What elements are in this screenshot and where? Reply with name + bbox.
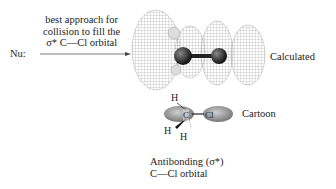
orbital-caption: Antibonding (σ*) C—Cl orbital [150,156,224,180]
caption-line-2: C—Cl orbital [150,168,224,180]
atom-cl: Cl [205,109,214,121]
atom-c: C [183,109,189,121]
nucleophile-label: Nu: [10,48,26,60]
approach-annotation: best approach for collision to fill the … [43,14,120,49]
approach-line-3: σ* C—Cl orbital [43,37,120,49]
cartoon-label: Cartoon [242,108,276,120]
atom-h-left: H [164,125,171,137]
approach-line-2: collision to fill the [43,26,120,38]
approach-arrow [40,52,131,56]
atom-h-top: H [171,92,178,104]
caption-line-1: Antibonding (σ*) [150,156,224,168]
calculated-label: Calculated [270,51,315,63]
calculated-orbital-mesh [132,10,265,90]
approach-line-1: best approach for [43,14,120,26]
atom-h-right: H [180,131,187,143]
cartoon-orbital [164,103,233,129]
